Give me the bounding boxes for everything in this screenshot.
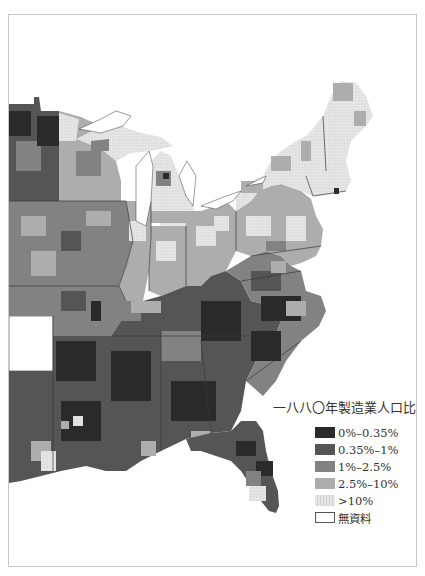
legend-label: 2.5%–10%	[338, 477, 399, 491]
map-frame: 一八八〇年製造業人口比例 0%–0.35% 0.35%–1% 1%–2.5% 2…	[8, 14, 417, 567]
legend-item-0-035: 0%–0.35%	[315, 424, 417, 441]
swatch-darkest-icon	[315, 427, 335, 438]
legend-item-25-10: 2.5%–10%	[315, 475, 417, 492]
legend-label: 無資料	[338, 510, 371, 526]
legend-item-over-10: >10%	[315, 492, 417, 509]
legend-item-no-data: 無資料	[315, 509, 417, 526]
swatch-medium-icon	[315, 461, 335, 472]
legend-title: 一八八〇年製造業人口比例	[273, 397, 417, 416]
legend-label: >10%	[338, 494, 373, 508]
legend-label: 0.35%–1%	[338, 443, 399, 457]
map-legend: 一八八〇年製造業人口比例 0%–0.35% 0.35%–1% 1%–2.5% 2…	[273, 397, 417, 526]
swatch-light-icon	[315, 478, 335, 489]
legend-label: 0%–0.35%	[338, 426, 399, 440]
legend-item-035-1: 0.35%–1%	[315, 441, 417, 458]
swatch-empty-icon	[315, 512, 335, 523]
legend-item-1-25: 1%–2.5%	[315, 458, 417, 475]
legend-items: 0%–0.35% 0.35%–1% 1%–2.5% 2.5%–10% >10% …	[315, 424, 417, 526]
swatch-dark-icon	[315, 444, 335, 455]
legend-label: 1%–2.5%	[338, 460, 391, 474]
new-england-region	[296, 81, 373, 196]
swatch-lightest-dotted-icon	[315, 495, 335, 506]
